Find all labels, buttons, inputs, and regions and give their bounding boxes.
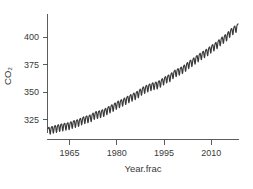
x-tick-label: 1965 (60, 148, 80, 158)
x-tick-label: 1995 (154, 148, 174, 158)
x-tick-label: 1980 (107, 148, 127, 158)
y-tick-label: 375 (24, 60, 39, 70)
y-tick-label-group: 325350375400 (24, 32, 39, 125)
x-tick-label: 2010 (201, 148, 221, 158)
x-tick-label-group: 1965198019952010 (60, 148, 222, 158)
y-tick-label: 325 (24, 115, 39, 125)
x-tick-group (70, 140, 212, 145)
co2-line-path (48, 24, 238, 134)
x-axis-title: Year.frac (124, 163, 161, 174)
y-tick-label: 400 (24, 32, 39, 42)
y-tick-group (43, 37, 48, 120)
x-axis: 1965198019952010 Year.frac (47, 140, 239, 175)
co2-keeling-curve-figure: 325350375400 CO₂ 1965198019952010 Year.f… (0, 0, 253, 189)
y-axis-title: CO₂ (2, 67, 13, 85)
data-series-co2 (48, 24, 238, 134)
y-tick-label: 350 (24, 87, 39, 97)
y-axis: 325350375400 CO₂ (2, 14, 48, 133)
chart-canvas: 325350375400 CO₂ 1965198019952010 Year.f… (0, 0, 253, 189)
